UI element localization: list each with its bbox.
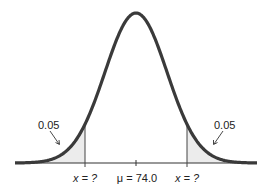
right-arrow-icon bbox=[214, 131, 224, 145]
left-arrow-icon bbox=[50, 131, 60, 145]
bell-curve bbox=[15, 13, 257, 163]
left-tail-area-label: 0.05 bbox=[38, 119, 59, 131]
normal-curve-diagram: 0.05 0.05 x = ? μ = 74.0 x = ? bbox=[0, 0, 271, 192]
mean-label: μ = 74.0 bbox=[117, 172, 157, 184]
right-cutoff-label: x = ? bbox=[174, 172, 200, 184]
right-tail-area-label: 0.05 bbox=[214, 119, 235, 131]
left-cutoff-label: x = ? bbox=[72, 172, 98, 184]
